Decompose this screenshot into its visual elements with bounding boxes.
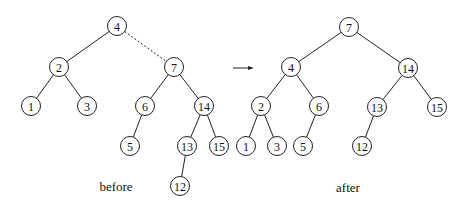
tree-node-b4: 4: [108, 17, 127, 36]
tree-node-b2: 2: [50, 58, 69, 77]
tree-node-a14: 14: [399, 59, 418, 78]
node-label: 2: [258, 100, 264, 114]
tree-node-b7: 7: [165, 58, 184, 77]
node-label: 15: [431, 101, 443, 115]
arrow-head: [248, 66, 254, 70]
node-label: 3: [84, 100, 90, 114]
node-label: 14: [198, 100, 210, 114]
node-label: 4: [288, 61, 294, 75]
node-label: 1: [28, 100, 34, 114]
edge-a7-a4: [299, 32, 341, 61]
node-label: 15: [213, 140, 225, 154]
edge-b2-b3: [65, 75, 82, 99]
tree-node-a3: 3: [268, 137, 287, 156]
tree-node-b5: 5: [121, 137, 140, 156]
node-label: 7: [171, 61, 177, 75]
edge-b6-b5: [133, 115, 141, 137]
edge-b14-b15: [207, 115, 215, 137]
tree-node-a15: 15: [428, 98, 447, 117]
edge-a13-a12: [365, 116, 373, 137]
edge-b14-b13: [191, 115, 201, 138]
tree-node-a2: 2: [252, 97, 271, 116]
node-label: 12: [356, 140, 368, 154]
edge-b13-b12: [182, 155, 186, 176]
node-label: 5: [127, 140, 133, 154]
edge-a2-a3: [265, 115, 274, 137]
edge-b4-b2: [67, 31, 109, 61]
edge-a2-a1: [249, 115, 257, 137]
tree-node-a6: 6: [310, 97, 329, 116]
edge-a6-a5: [307, 115, 316, 137]
before-tree: 427136145131512 before: [22, 17, 229, 196]
node-label: 2: [56, 61, 62, 75]
tree-node-b14: 14: [195, 97, 214, 116]
edge-b7-b14: [180, 75, 198, 99]
node-label: 5: [300, 140, 306, 154]
tree-node-a13: 13: [368, 98, 387, 117]
node-label: 1: [243, 140, 249, 154]
tree-rotation-diagram: 427136145131512 before 741426131513512 a…: [0, 0, 465, 205]
tree-node-a5: 5: [294, 137, 313, 156]
tree-node-a7: 7: [340, 18, 359, 37]
node-label: 12: [174, 180, 186, 194]
rotation-arrow-icon: [233, 66, 254, 70]
edge-b4-b7: [125, 32, 167, 62]
before-nodes: 427136145131512: [22, 17, 229, 196]
tree-node-a4: 4: [282, 58, 301, 77]
edge-a14-a15: [414, 76, 432, 100]
tree-node-a1: 1: [237, 137, 256, 156]
node-label: 7: [346, 21, 352, 35]
edge-b7-b6: [151, 75, 169, 99]
node-label: 6: [316, 100, 322, 114]
edge-a7-a14: [357, 32, 400, 62]
edge-b2-b1: [37, 75, 54, 99]
node-label: 14: [402, 62, 414, 76]
node-label: 13: [181, 140, 193, 154]
after-edges: [249, 32, 431, 137]
tree-node-b3: 3: [78, 97, 97, 116]
tree-node-b12: 12: [171, 177, 190, 196]
edge-a4-a2: [267, 75, 285, 99]
after-tree: 741426131513512 after: [237, 18, 447, 195]
edge-a14-a13: [383, 75, 402, 99]
tree-node-b13: 13: [178, 137, 197, 156]
node-label: 3: [274, 140, 280, 154]
after-caption: after: [336, 180, 360, 195]
node-label: 13: [371, 101, 383, 115]
after-nodes: 741426131513512: [237, 18, 447, 156]
tree-node-b1: 1: [22, 97, 41, 116]
tree-node-b15: 15: [210, 137, 229, 156]
before-caption: before: [99, 179, 132, 194]
node-label: 4: [114, 20, 120, 34]
tree-node-b6: 6: [136, 97, 155, 116]
node-label: 6: [142, 100, 148, 114]
edge-a4-a6: [297, 75, 314, 99]
tree-node-a12: 12: [353, 137, 372, 156]
